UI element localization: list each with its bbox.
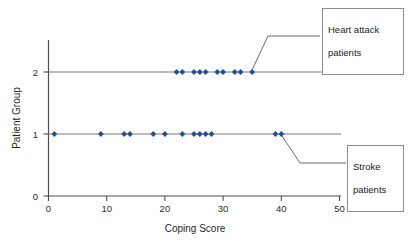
heart-attack-leader-line bbox=[252, 36, 320, 70]
data-point bbox=[232, 69, 238, 75]
scatter-chart: 0 10 20 30 40 50 0 1 2 Coping Score Pati… bbox=[0, 0, 409, 245]
x-tick-label-50: 50 bbox=[334, 203, 345, 214]
data-point bbox=[203, 131, 209, 137]
x-tick-label-10: 10 bbox=[101, 203, 112, 214]
x-tick-label-40: 40 bbox=[276, 203, 287, 214]
data-point bbox=[162, 131, 168, 137]
data-point bbox=[98, 131, 104, 137]
data-point bbox=[150, 131, 156, 137]
y-tick-label-0: 0 bbox=[33, 191, 38, 202]
data-point bbox=[203, 69, 209, 75]
x-tick-label-30: 30 bbox=[218, 203, 229, 214]
y-tick-label-1: 1 bbox=[33, 129, 38, 140]
stroke-callout: Stroke patients bbox=[347, 145, 404, 212]
data-point bbox=[191, 69, 197, 75]
data-point bbox=[174, 69, 180, 75]
stroke-callout-line2: patients bbox=[353, 184, 398, 196]
heart-attack-callout: Heart attack patients bbox=[322, 8, 404, 75]
heart-attack-callout-line2: patients bbox=[328, 47, 398, 59]
x-axis-ticks bbox=[49, 196, 340, 201]
y-axis-title: Patient Group bbox=[11, 87, 22, 149]
data-point bbox=[278, 131, 284, 137]
x-tick-label-0: 0 bbox=[46, 203, 51, 214]
data-point bbox=[214, 69, 220, 75]
y-tick-label-2: 2 bbox=[33, 67, 38, 78]
data-point bbox=[127, 131, 133, 137]
data-point bbox=[51, 131, 57, 137]
stroke-leader-line bbox=[282, 136, 346, 163]
data-point bbox=[197, 131, 203, 137]
stroke-callout-line1: Stroke bbox=[353, 161, 398, 173]
data-point bbox=[220, 69, 226, 75]
y-axis-ticks bbox=[44, 72, 49, 196]
data-point bbox=[179, 69, 185, 75]
data-point bbox=[209, 131, 215, 137]
data-point bbox=[179, 131, 185, 137]
data-point bbox=[191, 131, 197, 137]
data-point bbox=[273, 131, 279, 137]
data-point bbox=[238, 69, 244, 75]
x-axis-title: Coping Score bbox=[165, 223, 226, 234]
data-point bbox=[121, 131, 127, 137]
data-point bbox=[197, 69, 203, 75]
heart-attack-callout-line1: Heart attack bbox=[328, 24, 398, 36]
x-tick-label-20: 20 bbox=[160, 203, 171, 214]
